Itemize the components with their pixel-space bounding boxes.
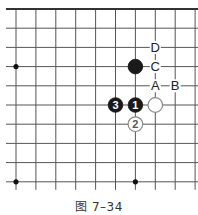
marker-label: A	[151, 78, 160, 93]
go-board: DCAB 123	[0, 0, 198, 195]
marker-d: D	[150, 40, 161, 55]
stone-number: 1	[132, 99, 138, 111]
white-stone-2: 2	[128, 117, 143, 132]
marker-a: A	[150, 78, 161, 93]
star-point	[13, 179, 18, 184]
figure-caption: 图 7–34	[0, 197, 198, 214]
star-point	[133, 179, 138, 184]
stone-body	[128, 59, 143, 74]
stone-body	[148, 98, 163, 113]
black-stone-1: 1	[128, 98, 143, 113]
marker-c: C	[150, 59, 161, 74]
marker-b: B	[170, 78, 181, 93]
board-grid	[6, 9, 198, 190]
stone-number: 2	[132, 118, 138, 130]
black-stone-3: 3	[108, 98, 123, 113]
black-stone	[128, 59, 143, 74]
stone-number: 3	[112, 99, 118, 111]
white-stone	[148, 98, 163, 113]
marker-label: C	[151, 59, 160, 74]
marker-label: B	[171, 78, 180, 93]
marker-label: D	[151, 40, 160, 55]
star-point	[13, 64, 18, 69]
